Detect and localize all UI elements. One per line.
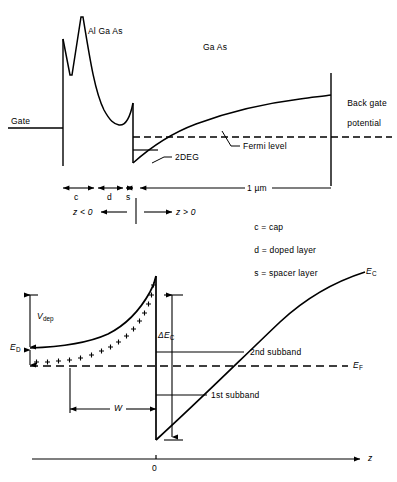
- layer-d-label: d: [107, 192, 112, 203]
- top-panel-artwork: [8, 17, 392, 224]
- ed-label: ED: [10, 342, 21, 355]
- back-gate-potential-label: Back gate potential: [337, 88, 387, 138]
- ed-subscript: D: [16, 346, 21, 353]
- subband-1-label: 1st subband: [211, 390, 260, 401]
- scale-length-label: 1 µm: [247, 183, 267, 194]
- z-axis-label: z: [368, 453, 372, 464]
- delta-ec-subscript: C: [170, 334, 175, 341]
- gaas-band-profile: [133, 95, 331, 163]
- algaas-material-label: Al Ga As: [88, 26, 123, 37]
- ec-label: EC: [366, 266, 377, 279]
- legend-item-cap: c = cap: [254, 222, 283, 232]
- figure-artwork: [0, 0, 397, 482]
- ef-label: EF: [353, 360, 363, 373]
- legend-item-spacer: s = spacer layer: [254, 268, 317, 278]
- twodeg-leader-line: [152, 157, 164, 163]
- legend-item-doped: d = doped layer: [254, 245, 316, 255]
- origin-label: 0: [152, 463, 157, 474]
- w-label: W: [114, 403, 122, 414]
- vdep-label: Vdep: [37, 311, 54, 324]
- layer-s-label: s: [126, 192, 130, 203]
- vdep-subscript: dep: [43, 315, 54, 322]
- delta-ec-symbol: ΔE: [158, 330, 170, 340]
- z-negative-label: z < 0: [73, 207, 93, 218]
- z-positive-label: z > 0: [176, 207, 196, 218]
- subband-2-label: 2nd subband: [250, 347, 301, 358]
- bottom-panel-artwork: [24, 272, 365, 459]
- ec-subscript: C: [372, 270, 377, 277]
- layer-legend: c = cap d = doped layer s = spacer layer: [244, 210, 318, 291]
- gaas-material-label: Ga As: [203, 42, 227, 53]
- gate-label: Gate: [11, 116, 30, 127]
- layer-c-label: c: [74, 192, 78, 203]
- figure-band-diagram: Gate Al Ga As Ga As Back gate potential …: [0, 0, 397, 482]
- back-gate-line-1: Back gate: [347, 98, 387, 108]
- back-gate-line-2: potential: [347, 118, 381, 128]
- fermi-level-label: Fermi level: [243, 141, 287, 152]
- twodeg-label: 2DEG: [175, 152, 199, 163]
- fermi-leader-line: [222, 131, 231, 146]
- delta-ec-label: ΔEC: [158, 330, 174, 343]
- ef-subscript: F: [359, 364, 363, 371]
